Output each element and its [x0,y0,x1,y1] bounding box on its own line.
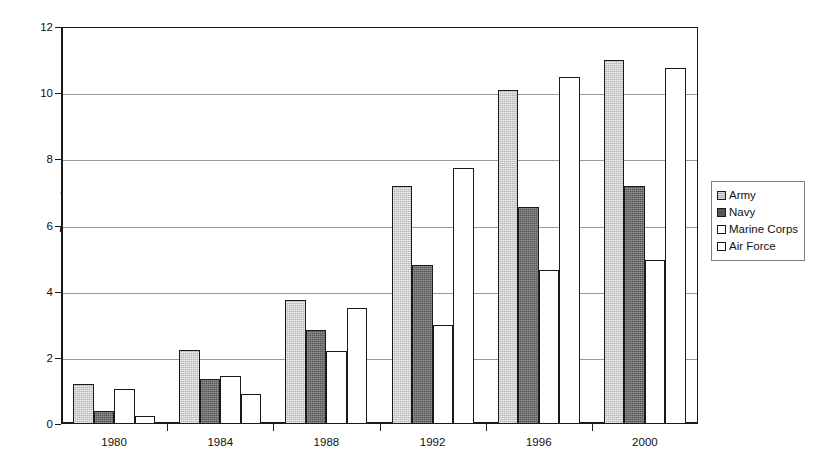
bar-army-1984 [179,350,200,424]
bar-navy-1988 [306,330,327,424]
bar-marine-corps-1984 [220,376,241,424]
legend-item-air-force[interactable]: Air Force [717,238,798,255]
legend-label: Army [729,190,756,202]
x-tick-label-1992: 1992 [388,436,478,448]
bar-army-1980 [73,384,94,424]
bar-marine-corps-1992 [433,325,454,424]
legend-label: Air Force [729,241,776,253]
y-tick-mark [55,424,61,425]
bar-air-force-1988 [347,308,368,424]
bar-navy-1992 [412,265,433,424]
bar-air-force-2000 [665,68,686,424]
bar-army-1996 [498,90,519,424]
y-tick-label: 12 [13,21,53,33]
legend: ArmyNavyMarine CorpsAir Force [711,181,805,261]
x-tick-mark [273,424,274,431]
y-tick-label: 10 [13,87,53,99]
y-tick-label: 6 [13,220,53,232]
legend-swatch-icon [717,225,726,234]
legend-swatch-icon [717,208,726,217]
y-tick-label: 2 [13,352,53,364]
x-tick-label-1980: 1980 [69,436,159,448]
legend-item-navy[interactable]: Navy [717,204,798,221]
x-tick-label-1996: 1996 [494,436,584,448]
bar-marine-corps-1996 [539,270,560,424]
x-tick-mark [167,424,168,431]
bar-chart: Percentage 024681012 1980198419881992199… [0,0,827,466]
y-tick-label: 4 [13,286,53,298]
bar-air-force-1980 [135,416,156,424]
bar-army-1992 [392,186,413,424]
x-tick-mark [486,424,487,431]
x-tick-mark [592,424,593,431]
bar-marine-corps-1980 [114,389,135,424]
x-tick-label-1984: 1984 [175,436,265,448]
bar-navy-1980 [94,411,115,424]
bar-army-2000 [604,60,625,424]
bars-layer [61,27,698,424]
y-axis-tick-labels: 024681012 [8,0,53,466]
y-tick-label: 0 [13,418,53,430]
bar-marine-corps-1988 [326,351,347,424]
legend-item-army[interactable]: Army [717,187,798,204]
x-tick-label-1988: 1988 [281,436,371,448]
legend-item-marine-corps[interactable]: Marine Corps [717,221,798,238]
y-tick-label: 8 [13,153,53,165]
bar-air-force-1992 [453,168,474,424]
legend-label: Navy [729,207,755,219]
bar-marine-corps-2000 [645,260,666,424]
x-tick-mark [380,424,381,431]
legend-label: Marine Corps [729,224,798,236]
bar-army-1988 [285,300,306,424]
bar-navy-1984 [200,379,221,424]
bar-navy-1996 [518,207,539,424]
bar-navy-2000 [624,186,645,424]
legend-swatch-icon [717,191,726,200]
legend-swatch-icon [717,242,726,251]
bar-air-force-1984 [241,394,262,424]
x-tick-label-2000: 2000 [600,436,690,448]
bar-air-force-1996 [559,77,580,424]
